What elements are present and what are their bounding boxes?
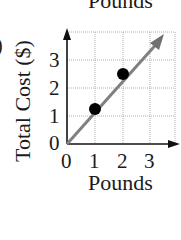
y-axis-label: Total Cost ($) — [10, 26, 36, 176]
cost-line — [67, 40, 160, 144]
x-axis-label: Pounds — [88, 170, 153, 195]
y-tick-2: 2 — [49, 78, 60, 99]
y-tick-1: 1 — [49, 106, 60, 127]
y-tick-3: 3 — [49, 50, 60, 71]
data-point-1 — [89, 103, 101, 115]
y-tick-0: 0 — [49, 133, 60, 154]
data-point-2 — [117, 68, 129, 80]
x-axis-arrow-icon — [168, 140, 180, 148]
x-tick-1: 1 — [89, 151, 100, 172]
x-tick-2: 2 — [117, 151, 128, 172]
x-tick-0: 0 — [61, 151, 72, 172]
y-axis-arrow-icon — [63, 28, 71, 40]
x-tick-3: 3 — [144, 151, 155, 172]
